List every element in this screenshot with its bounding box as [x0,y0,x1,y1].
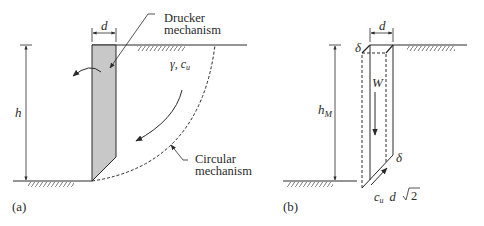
panel-a: d h Drucker mechanism γ, cu Circular mec… [12,11,252,214]
drucker-leader-arrow [110,14,155,68]
width-label-d-b: d [379,18,386,33]
displaced-block-outline [362,53,386,188]
circular-label-line2: mechanism [195,164,252,178]
panel-b: d hM W δ δ cud 2 (b) [283,18,467,214]
drucker-wedge [92,45,116,181]
bottom-ground-hatch-b [287,182,333,187]
drucker-label-line2: mechanism [164,23,221,37]
delta-top: δ [355,40,362,55]
diagram-svg: d h Drucker mechanism γ, cu Circular mec… [0,0,484,226]
circular-leader-arrow [171,145,188,160]
top-ground-hatch-b [407,46,455,51]
weight-label: W [372,75,384,90]
sliding-direction-arrow [136,90,182,141]
shear-label: cud [374,190,397,205]
height-label-hm: hM [318,102,333,119]
sqrt-radicand: 2 [411,189,417,203]
displacement-top-left [362,45,370,53]
top-ground-hatch [137,46,185,51]
slip-plane [362,155,393,188]
width-label-d: d [101,18,108,33]
delta-bottom: δ [396,150,403,165]
soil-params: γ, cu [170,57,190,72]
bottom-ground-hatch [28,182,74,187]
slope-mechanism-diagram: d h Drucker mechanism γ, cu Circular mec… [0,0,484,226]
panel-b-caption: (b) [283,199,298,214]
height-label-h: h [15,105,22,120]
panel-a-caption: (a) [12,199,26,214]
displacement-top-right [386,45,393,53]
